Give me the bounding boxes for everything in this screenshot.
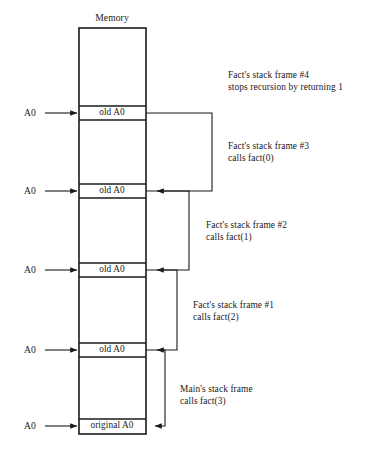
pointer-label-1: A0 <box>24 107 36 119</box>
slot-label-1: old A0 <box>77 107 147 119</box>
annotation-frame-3: Fact's stack frame #3 calls fact(0) <box>228 140 309 164</box>
slot-label-3: old A0 <box>77 264 147 276</box>
link-slot4-to-slot5 <box>146 350 165 426</box>
link-slot1-to-slot2 <box>146 113 212 191</box>
pointer-label-4: A0 <box>24 344 36 356</box>
slot-label-2: old A0 <box>77 185 147 197</box>
slot-label-4: old A0 <box>77 344 147 356</box>
pointer-label-5: A0 <box>24 420 36 432</box>
annotation-frame-3-line1: Fact's stack frame #3 <box>228 141 309 151</box>
annotation-main-frame: Main's stack frame calls fact(3) <box>180 383 253 407</box>
slot-label-5: original A0 <box>77 420 147 432</box>
annotation-frame-2: Fact's stack frame #2 calls fact(1) <box>206 219 287 243</box>
memory-stack-diagram: Memory old A0 old A0 old A0 old A0 origi… <box>0 0 369 462</box>
memory-column-title: Memory <box>77 12 147 24</box>
memory-column-outline <box>79 28 146 434</box>
annotation-main-frame-line2: calls fact(3) <box>180 395 253 407</box>
annotation-frame-3-line2: calls fact(0) <box>228 152 309 164</box>
annotation-frame-4-line2: stops recursion by returning 1 <box>228 81 343 93</box>
link-slot2-to-slot3 <box>146 191 189 270</box>
annotation-frame-4: Fact's stack frame #4 stops recursion by… <box>228 69 343 93</box>
annotation-frame-2-line2: calls fact(1) <box>206 231 287 243</box>
annotation-frame-1: Fact's stack frame #1 calls fact(2) <box>193 299 274 323</box>
annotation-frame-4-line1: Fact's stack frame #4 <box>228 70 309 80</box>
annotation-main-frame-line1: Main's stack frame <box>180 384 253 394</box>
pointer-label-3: A0 <box>24 264 36 276</box>
annotation-frame-1-line2: calls fact(2) <box>193 311 274 323</box>
link-slot3-to-slot4 <box>146 270 177 350</box>
annotation-frame-2-line1: Fact's stack frame #2 <box>206 220 287 230</box>
annotation-frame-1-line1: Fact's stack frame #1 <box>193 300 274 310</box>
pointer-label-2: A0 <box>24 185 36 197</box>
